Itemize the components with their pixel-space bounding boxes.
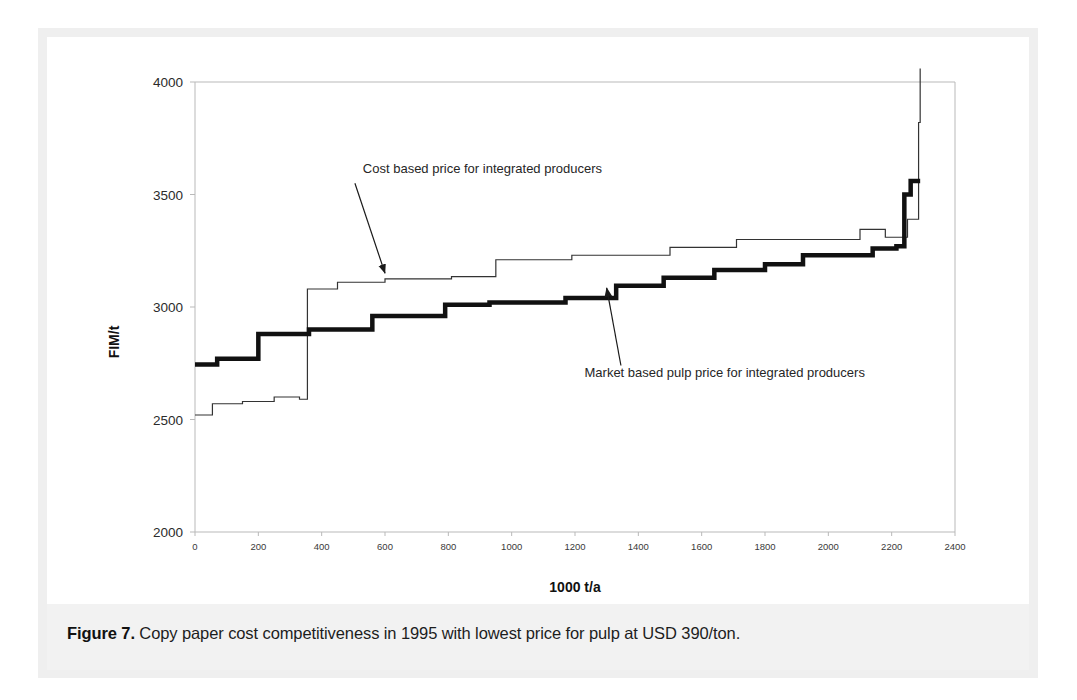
y-axis-title: FIM/t xyxy=(106,325,122,358)
chart-canvas: 20002500300035004000FIM/t020040060080010… xyxy=(47,37,1029,597)
x-tick-label: 2200 xyxy=(881,541,902,552)
annotations-group: Cost based price for integrated producer… xyxy=(355,161,865,380)
x-tick-label: 1200 xyxy=(564,541,585,552)
x-tick-label: 2400 xyxy=(944,541,965,552)
x-tick-label: 600 xyxy=(377,541,393,552)
y-tick-label: 4000 xyxy=(153,75,183,90)
chart-plot-card: 20002500300035004000FIM/t020040060080010… xyxy=(47,37,1029,597)
series-line-market-based xyxy=(195,181,920,364)
y-axis-tick-labels: 20002500300035004000 xyxy=(153,75,195,540)
x-tick-label: 1800 xyxy=(754,541,775,552)
series-line-cost-based xyxy=(195,69,920,416)
x-tick-label: 2000 xyxy=(818,541,839,552)
plot-frame xyxy=(195,82,955,532)
x-tick-label: 200 xyxy=(250,541,266,552)
x-axis-title: 1000 t/a xyxy=(549,579,601,595)
x-axis-tick-labels: 0200400600800100012001400160018002000220… xyxy=(192,532,965,552)
x-tick-label: 1400 xyxy=(628,541,649,552)
x-tick-label: 0 xyxy=(192,541,197,552)
figure-root: 20002500300035004000FIM/t020040060080010… xyxy=(0,0,1077,700)
cost-based-annotation-arrow xyxy=(355,183,385,273)
market-based-annotation-text: Market based pulp price for integrated p… xyxy=(585,365,866,380)
x-tick-label: 400 xyxy=(314,541,330,552)
y-tick-label: 3000 xyxy=(153,300,183,315)
x-tick-label: 1600 xyxy=(691,541,712,552)
cost-based-annotation-text: Cost based price for integrated producer… xyxy=(363,161,603,176)
figure-caption-body: Copy paper cost competitiveness in 1995 … xyxy=(135,624,740,642)
figure-caption: Figure 7. Copy paper cost competitivenes… xyxy=(67,622,1007,644)
y-tick-label: 2500 xyxy=(153,413,183,428)
plot-border xyxy=(195,82,955,532)
x-tick-label: 800 xyxy=(440,541,456,552)
y-tick-label: 2000 xyxy=(153,525,183,540)
y-tick-label: 3500 xyxy=(153,188,183,203)
x-tick-label: 1000 xyxy=(501,541,522,552)
series-group xyxy=(195,69,920,416)
figure-caption-label: Figure 7. xyxy=(67,624,135,642)
